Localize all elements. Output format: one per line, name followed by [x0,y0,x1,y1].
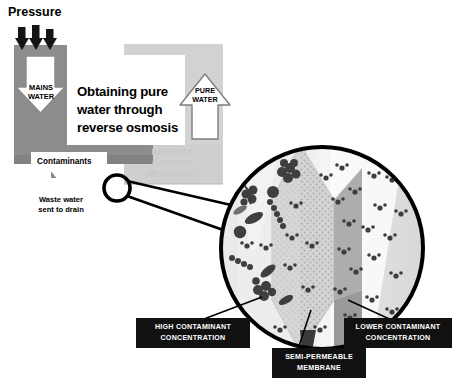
pressure-arrows-icon [15,25,57,50]
watermark-line3: MEMBRANE [133,170,213,180]
watermark-line2: OSMOSIS [133,159,213,169]
waste-water-line2: sent to drain [24,206,98,215]
callout-low-line2: CONCENTRATION [366,333,431,344]
magnifier-circle [104,175,130,201]
pressure-label: Pressure [8,5,62,20]
callout-low-line1: LOWER CONTAMINANT [356,322,441,333]
callout-membrane-line2: MEMBRANE [297,363,341,374]
pure-water-label-line2: WATER [189,96,221,104]
diagram-title-line2: water through [77,102,162,118]
watermark-line1: REVERSE [133,148,213,158]
diagram-title-line3: reverse osmosis [77,120,178,136]
callout-membrane-line1: SEMI-PERMEABLE [285,352,353,363]
callout-high-line2: CONCENTRATION [161,333,226,344]
contaminants-label: Contaminants [37,157,92,167]
mains-water-label-line2: WATER [17,93,65,102]
reverse-osmosis-diagram: Pressure MAINS WATER Obtaining pure wate… [0,0,452,383]
waste-water-line1: Waste water [24,196,98,205]
callout-semi-permeable-membrane: SEMI-PERMEABLE MEMBRANE [272,348,366,378]
callout-high-contaminant-concentration: HIGH CONTAMINANT CONCENTRATION [136,318,250,348]
diagram-title-line1: Obtaining pure [77,84,168,100]
callout-lower-contaminant-concentration: LOWER CONTAMINANT CONCENTRATION [344,318,452,348]
callout-high-line1: HIGH CONTAMINANT [155,322,231,333]
